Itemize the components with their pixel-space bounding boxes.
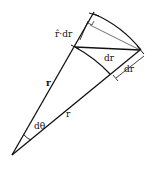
arc-outer	[94, 14, 141, 50]
label-radial-component: r̂·dr	[55, 29, 73, 39]
ray-r-vector	[12, 12, 94, 155]
label-r-vector: r	[46, 78, 51, 88]
label-angle: dθ	[34, 121, 45, 131]
dim-tick-a	[113, 75, 118, 81]
dim-radial-component	[80, 21, 88, 40]
tick-top	[89, 13, 99, 16]
angle-arc	[24, 135, 31, 140]
dr-vector	[75, 47, 140, 50]
ray-r-rotated	[12, 50, 140, 155]
label-radial-increment: dr	[124, 64, 135, 74]
label-r-scalar: r	[66, 109, 71, 119]
polar-displacement-diagram: r r r̂·dr dr dr dθ	[0, 0, 153, 169]
label-displacement: dr	[104, 53, 115, 63]
projection-line	[90, 25, 140, 50]
